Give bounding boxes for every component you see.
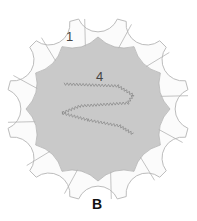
caption-b: B — [92, 197, 102, 211]
scalloped-crust-diagram — [0, 0, 197, 221]
label-1: 1 — [66, 30, 73, 43]
label-4: 4 — [96, 70, 103, 83]
